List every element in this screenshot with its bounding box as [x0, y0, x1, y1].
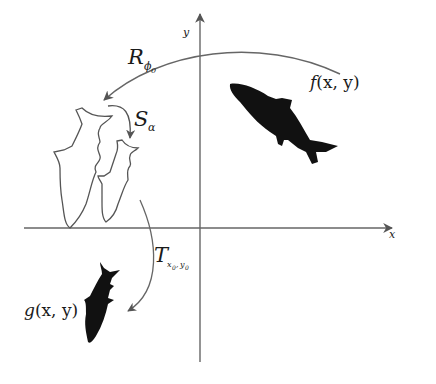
translation-arrow: [128, 200, 154, 311]
transform-diagram: x y R ϕ 0 S α T x 0 , y 0 f(x, y) g(x, y…: [0, 0, 436, 384]
svg-text:0: 0: [185, 264, 189, 271]
x-axis-label: x: [389, 228, 396, 241]
svg-text:α: α: [148, 121, 156, 134]
scaling-label: S α: [134, 107, 156, 134]
svg-text:S: S: [134, 107, 148, 131]
result-function-label: g(x, y): [24, 300, 78, 320]
scaling-arrow: [108, 106, 130, 138]
svg-text:f(x, y): f(x, y): [308, 72, 360, 92]
svg-text:0: 0: [151, 66, 156, 75]
translation-label: T x 0 , y 0: [154, 243, 189, 271]
shark-translated-icon: [84, 262, 120, 343]
svg-text:,: ,: [176, 260, 179, 269]
y-axis-label: y: [182, 26, 190, 39]
shark-original-icon: [230, 84, 338, 164]
original-function-label: f(x, y): [308, 72, 360, 92]
svg-text:g(x, y): g(x, y): [24, 300, 78, 320]
rotation-label: R ϕ 0: [127, 45, 156, 75]
svg-text:R: R: [127, 45, 144, 69]
shark-scaled-icon: [98, 140, 138, 222]
